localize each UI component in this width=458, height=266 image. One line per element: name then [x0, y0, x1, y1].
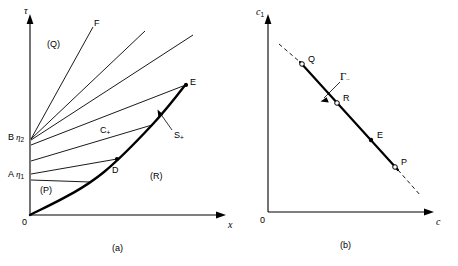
marker-point-d: [115, 157, 119, 161]
curve-label-s-plus-sub: +: [180, 134, 184, 141]
figure-root: τ x 0 (Q) (P) (R) Bη2 Aη1 F E D C+ S+ (a…: [0, 0, 458, 266]
axis-point-a: Aη1: [8, 170, 24, 180]
c1-axis-label: c1: [256, 7, 264, 18]
c1-axis-label-sub: 1: [260, 11, 264, 18]
shock-curve-S-plus: [30, 84, 186, 215]
marker-point-q: [300, 62, 305, 67]
gamma-minus-dashed-upper: [279, 44, 300, 62]
panel-a: τ x 0 (Q) (P) (R) Bη2 Aη1 F E D C+ S+ (a…: [0, 0, 236, 266]
axis-point-a-eta-sub: 1: [20, 173, 24, 180]
x-axis-label: x: [228, 220, 232, 230]
axis-point-b-eta-sub: 2: [20, 136, 24, 143]
region-label-p: (P): [40, 186, 52, 195]
characteristic-F: [31, 27, 93, 139]
characteristic-7: [31, 180, 90, 182]
curve-label-s-plus: S+: [174, 131, 184, 141]
point-label-r: R: [343, 94, 350, 103]
origin-label-b: 0: [260, 216, 265, 225]
region-label-q: (Q): [47, 40, 60, 49]
c-axis-label: c: [436, 217, 440, 227]
panel-b-plot: [236, 0, 458, 266]
axis-point-b-letter: B: [8, 132, 14, 142]
gamma-minus-leader: [321, 82, 341, 102]
region-label-r: (R): [150, 172, 163, 181]
curve-label-c-plus-sub: +: [107, 129, 111, 136]
marker-point-r: [335, 101, 340, 106]
tau-axis: [27, 14, 34, 215]
gamma-minus-dashed-lower: [398, 170, 421, 196]
curve-label-e: E: [190, 78, 196, 87]
panel-b: c1 c 0 Γ− Q R E P (b): [236, 0, 458, 266]
x-axis: [30, 212, 226, 219]
point-label-e-b: E: [377, 131, 383, 140]
curve-label-gamma-minus: Γ−: [340, 71, 350, 83]
curve-label-d: D: [112, 166, 119, 175]
axis-point-b: Bη2: [8, 133, 24, 143]
curve-label-f: F: [94, 19, 100, 28]
c1-axis: [265, 14, 272, 212]
marker-point-e-b: [369, 138, 373, 142]
curve-label-c-plus: C+: [100, 126, 110, 136]
marker-point-p: [393, 165, 398, 170]
point-label-q: Q: [308, 55, 315, 64]
point-label-p: P: [401, 158, 407, 167]
origin-label-a: 0: [22, 218, 27, 227]
axis-point-a-letter: A: [8, 169, 14, 179]
c-axis: [268, 209, 434, 216]
panel-a-plot: [0, 0, 236, 266]
characteristic-3: [31, 35, 193, 140]
tau-axis-label: τ: [24, 6, 28, 16]
marker-point-e: [184, 83, 188, 87]
s-plus-leader: [158, 110, 173, 131]
caption-a: (a): [112, 243, 123, 253]
caption-b: (b): [340, 240, 351, 250]
curve-label-gamma-minus-sub: −: [346, 76, 350, 83]
